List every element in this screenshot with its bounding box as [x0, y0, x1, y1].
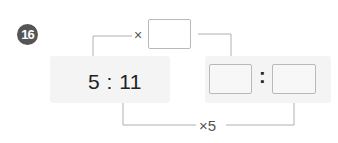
first-term-answer-box[interactable] — [209, 64, 252, 94]
answer-colon: : — [259, 65, 266, 88]
problem-number-badge: 16 — [17, 24, 38, 45]
multiply-sign: × — [134, 27, 142, 43]
second-term-answer-box[interactable] — [272, 64, 316, 94]
given-ratio-text: 5 : 11 — [88, 70, 142, 94]
multiplier-answer-box[interactable] — [148, 19, 191, 49]
times-five-label: ×5 — [199, 117, 216, 134]
